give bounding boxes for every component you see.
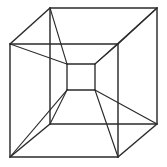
figure-background <box>0 0 167 167</box>
tesseract-wireframe-drawing <box>0 0 167 167</box>
tesseract-figure: Tesseract wireframe projection Line draw… <box>0 0 167 167</box>
